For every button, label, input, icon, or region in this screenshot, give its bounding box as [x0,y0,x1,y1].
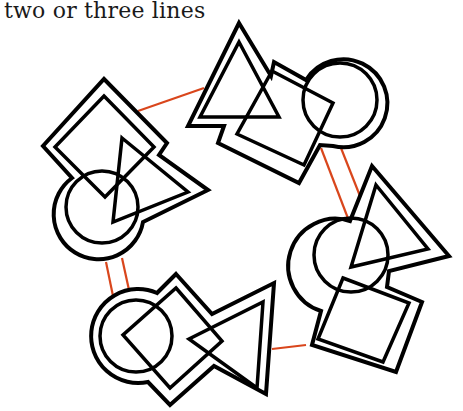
circle-shape [100,300,172,372]
link-left-bottom-b [122,258,129,290]
link-bottom-right [272,345,306,349]
cluster-right-outline [288,166,449,372]
circle-shape [66,171,138,243]
link-left-bottom-a [106,262,113,296]
cluster-top [188,23,387,183]
link-left-top [138,88,204,111]
cluster-left [43,79,208,259]
link-top-right-b [341,148,360,196]
cluster-right [288,166,449,372]
circle-shape [303,63,377,137]
shape-ring-diagram [0,0,463,411]
cluster-bottom-left [91,274,274,405]
